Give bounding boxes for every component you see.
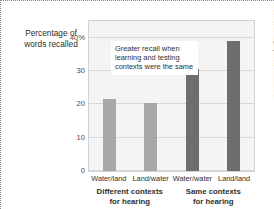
bar	[227, 41, 240, 171]
y-tick-label: 0	[81, 166, 85, 175]
bar	[103, 99, 116, 171]
group-label-same-line1: Same contexts	[172, 187, 256, 197]
bar	[144, 103, 157, 171]
y-tick-label: 40%	[70, 32, 85, 41]
y-tick-label: 30	[77, 66, 85, 75]
group-label-same-line2: for hearing	[172, 197, 256, 207]
annotation-line-2: learning and testing	[115, 53, 193, 62]
x-axis-group-labels: Different contexts for hearing Same cont…	[88, 187, 255, 206]
annotation-callout: Greater recall when learning and testing…	[111, 41, 198, 75]
bar	[186, 69, 199, 171]
y-tick-label: 10	[77, 132, 85, 141]
group-label-different: Different contexts for hearing	[88, 187, 172, 206]
plot-area: 010203040% Greater recall when learning …	[88, 20, 255, 172]
bar-slot	[213, 21, 254, 171]
x-tick-label: Water/water	[172, 174, 214, 183]
chart-figure: Percentage of words recalled 010203040% …	[0, 0, 274, 209]
group-label-different-line1: Different contexts	[88, 187, 172, 197]
y-tick-label: 20	[77, 99, 85, 108]
x-axis-category-labels: Water/landLand/waterWater/waterLand/land	[88, 174, 255, 183]
x-tick-label: Water/land	[88, 174, 130, 183]
photo-credit: Fred McConnaughey/Photo Researchers	[273, 4, 274, 97]
x-tick-label: Land/water	[130, 174, 172, 183]
annotation-line-1: Greater recall when	[115, 44, 193, 53]
group-label-same: Same contexts for hearing	[172, 187, 256, 206]
x-tick-label: Land/land	[213, 174, 255, 183]
group-label-different-line2: for hearing	[88, 197, 172, 207]
annotation-line-3: contexts were the same	[115, 62, 193, 71]
